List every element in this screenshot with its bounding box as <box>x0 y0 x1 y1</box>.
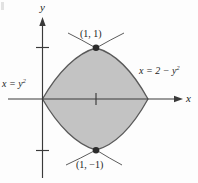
right-curve-equation-text: x = 2 − y <box>139 65 176 76</box>
y-axis-label: y <box>40 2 45 13</box>
x-axis-label: x <box>186 93 191 104</box>
intersection-point-bottom <box>93 147 100 154</box>
left-curve-exponent: 2 <box>23 77 26 84</box>
right-curve-exponent: 2 <box>176 64 179 71</box>
point-label-bottom: (1, −1) <box>76 160 103 170</box>
intersection-point-top <box>93 45 100 52</box>
left-curve-equation-text: x = y <box>2 78 23 89</box>
right-curve-equation-label: x = 2 − y2 <box>139 65 179 76</box>
x-axis-arrowhead <box>174 96 183 102</box>
point-label-top: (1, 1) <box>80 29 102 39</box>
y-axis-arrowhead <box>39 17 45 26</box>
figure-container: y x x = y2 x = 2 − y2 (1, 1) (1, −1) <box>0 0 198 183</box>
left-curve-equation-label: x = y2 <box>2 78 26 89</box>
